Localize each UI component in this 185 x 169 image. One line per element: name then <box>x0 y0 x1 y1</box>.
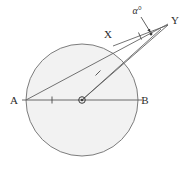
point-label-y: Y <box>171 14 179 26</box>
point-label-a: A <box>10 94 18 106</box>
center-point-dot-o <box>81 99 84 102</box>
geometry-diagram-svg: A B X Y α° <box>0 0 185 169</box>
geometry-figure-container: A B X Y α° <box>0 0 185 169</box>
angle-label-alpha: α° <box>132 5 141 16</box>
alpha-leader-arrow <box>141 17 150 32</box>
angle-vertex-dot <box>150 33 153 36</box>
point-label-x: X <box>104 28 112 40</box>
point-label-b: B <box>141 94 148 106</box>
segment-x-to-y <box>113 25 168 46</box>
